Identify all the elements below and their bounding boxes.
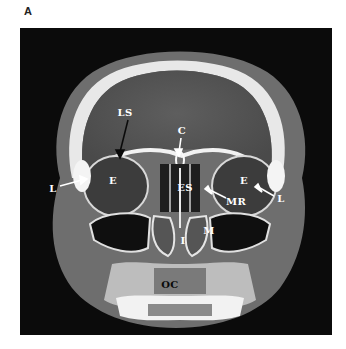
label-e-left: E [109,175,117,186]
label-l-left: L [49,183,56,194]
label-es: ES [177,182,192,193]
label-l-right: L [277,193,284,204]
label-e-right: E [240,175,248,186]
ct-scan-image: LS C L E ES E MR L M I OC [20,28,332,335]
label-m: M [203,225,214,236]
label-i: I [181,235,186,246]
label-c: C [178,125,186,136]
panel-letter: A [24,5,32,17]
label-mr: MR [226,196,246,207]
label-ls: LS [118,107,133,118]
label-oc: OC [161,279,178,290]
